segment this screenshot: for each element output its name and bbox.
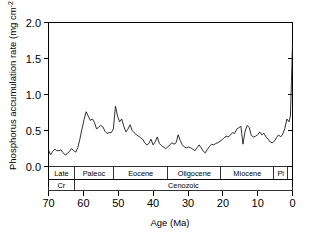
x-axis-ticks bbox=[49, 191, 293, 196]
epoch-label-pliocene: Pl bbox=[277, 169, 284, 178]
x-axis-tick-labels: 70 60 50 40 30 20 10 0 bbox=[42, 197, 295, 209]
y-tick-label-2-0: 2.0 bbox=[26, 17, 41, 29]
data-series-group bbox=[49, 44, 293, 155]
phosphorus-rate-line bbox=[49, 44, 293, 155]
y-axis-title: Phosphorus accumulation rate (mg cm-2 pe… bbox=[7, 0, 18, 170]
era-label-cenozoic: Cenozoic bbox=[168, 181, 199, 190]
y-tick-label-1-0: 1.0 bbox=[26, 89, 41, 101]
x-tick-label-10: 10 bbox=[252, 197, 264, 209]
chart-figure: Phosphorus accumulation rate (mg cm-2 pe… bbox=[0, 0, 311, 237]
y-axis-tick-labels: 2.0 1.5 1.0 0.5 0.0 bbox=[26, 17, 41, 173]
y-axis-ticks bbox=[44, 23, 293, 167]
epoch-label-eocene: Eocene bbox=[128, 169, 153, 178]
phosphorus-accumulation-chart: Phosphorus accumulation rate (mg cm-2 pe… bbox=[0, 0, 311, 237]
epoch-label-late: Late bbox=[54, 169, 68, 178]
svg-text:Phosphorus accumulation rate (: Phosphorus accumulation rate (mg cm-2 pe… bbox=[7, 0, 18, 170]
y-axis-title-text: Phosphorus accumulation rate (mg cm bbox=[7, 7, 18, 170]
timescale-epoch-row: Late Paleoc Eocene Oligocene Miocene Pl bbox=[49, 167, 293, 180]
y-tick-label-0-5: 0.5 bbox=[26, 125, 41, 137]
x-tick-label-50: 50 bbox=[112, 197, 124, 209]
x-tick-label-70: 70 bbox=[42, 197, 54, 209]
y-axis-title-tail: per 1000y) bbox=[7, 0, 18, 1]
timescale-era-row: Cr Cenozoic bbox=[49, 180, 293, 191]
epoch-label-miocene: Miocene bbox=[233, 169, 261, 178]
x-axis-title: Age (Ma) bbox=[150, 217, 189, 228]
x-tick-label-30: 30 bbox=[182, 197, 194, 209]
y-tick-label-0-0: 0.0 bbox=[26, 161, 41, 173]
x-tick-label-40: 40 bbox=[147, 197, 159, 209]
plot-frame bbox=[49, 23, 293, 187]
epoch-label-paleocene: Paleoc bbox=[83, 169, 106, 178]
era-label-cretaceous: Cr bbox=[57, 181, 65, 190]
y-tick-label-1-5: 1.5 bbox=[26, 53, 41, 65]
x-tick-label-0: 0 bbox=[289, 197, 295, 209]
x-tick-label-60: 60 bbox=[77, 197, 89, 209]
x-tick-label-20: 20 bbox=[217, 197, 229, 209]
epoch-label-oligocene: Oligocene bbox=[178, 169, 211, 178]
